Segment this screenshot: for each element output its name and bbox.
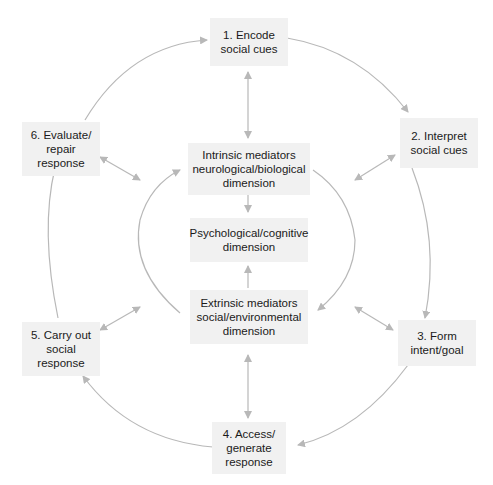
arrow-step4-to-step5: [83, 376, 213, 447]
social-information-processing-diagram: 1. Encodesocial cues 2. Interpretsocial …: [0, 0, 493, 485]
step-2-interpret-box: 2. Interpretsocial cues: [400, 118, 478, 168]
arrow-extrinsic-to-intrinsic: [138, 170, 180, 313]
box-line: response: [31, 156, 92, 170]
box-line: dimension: [197, 324, 302, 338]
box-line: 6. Evaluate/: [31, 128, 92, 142]
arrow-step5-to-step6: [48, 168, 58, 318]
step-1-encode-box: 1. Encodesocial cues: [210, 18, 288, 66]
box-line: 5. Carry out: [31, 328, 91, 342]
box-line: 4. Access/: [223, 427, 275, 441]
intrinsic-mediators-box: Intrinsic mediatorsneurological/biologic…: [188, 143, 310, 195]
box-line: 2. Interpret: [411, 129, 468, 143]
box-line: dimension: [192, 176, 305, 190]
box-line: dimension: [190, 240, 309, 254]
step-6-evaluate-box: 6. Evaluate/repairresponse: [22, 122, 100, 176]
box-line: response: [223, 455, 275, 469]
arrow-step3-center: [355, 307, 393, 330]
box-line: 1. Encode: [221, 28, 278, 42]
arrow-step1-to-step2: [287, 38, 408, 112]
box-line: Intrinsic mediators: [192, 148, 305, 162]
extrinsic-mediators-box: Extrinsic mediatorssocial/environmentald…: [190, 290, 308, 344]
arrow-step2-center: [355, 155, 395, 180]
box-line: social/environmental: [197, 310, 302, 324]
box-line: neurological/biological: [192, 162, 305, 176]
box-line: response: [31, 356, 91, 370]
box-line: 3. Form: [410, 329, 463, 343]
arrow-step5-center: [100, 307, 140, 330]
box-line: Extrinsic mediators: [197, 296, 302, 310]
arrow-step2-to-step3: [412, 168, 430, 318]
box-line: social cues: [221, 42, 278, 56]
box-line: generate: [223, 441, 275, 455]
arrow-step6-to-step1: [85, 40, 207, 120]
step-3-form-box: 3. Formintent/goal: [398, 320, 476, 366]
arrow-step6-center: [100, 157, 140, 180]
box-line: repair: [31, 142, 92, 156]
arrow-step3-to-step4: [298, 365, 408, 445]
box-line: social cues: [411, 143, 468, 157]
step-5-carry-out-box: 5. Carry outsocialresponse: [22, 322, 100, 376]
step-4-access-box: 4. Access/generateresponse: [212, 422, 286, 474]
box-line: intent/goal: [410, 343, 463, 357]
psychological-cognitive-box: Psychological/cognitivedimension: [190, 218, 308, 262]
box-line: Psychological/cognitive: [190, 226, 309, 240]
arrow-intrinsic-to-extrinsic: [313, 170, 355, 310]
box-line: social: [31, 342, 91, 356]
